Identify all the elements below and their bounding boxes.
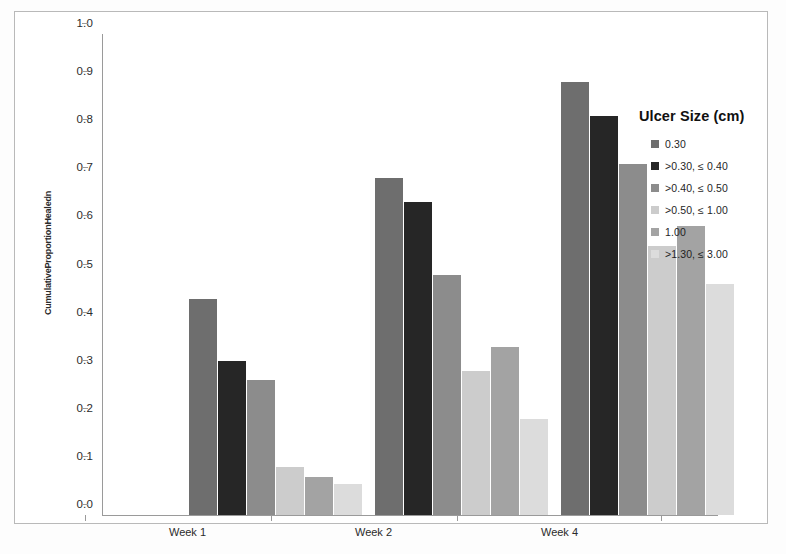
y-axis-title: CumulativeProportionHealedn xyxy=(43,168,53,338)
bar xyxy=(590,116,618,515)
legend-item: 1.00 xyxy=(651,226,777,238)
legend-item: 0.30 xyxy=(651,138,777,150)
bar xyxy=(561,82,589,515)
legend-item: >1.30, ≤ 3.00 xyxy=(651,248,777,260)
x-axis-category-label: Week 2 xyxy=(355,526,392,538)
legend-swatch-icon xyxy=(651,250,659,258)
legend-swatch-icon xyxy=(651,206,659,214)
y-axis-tick xyxy=(82,360,88,361)
plot-area xyxy=(103,34,705,515)
y-axis-tick xyxy=(82,312,88,313)
bar xyxy=(433,275,461,516)
bar xyxy=(648,246,676,515)
y-axis-tick xyxy=(82,504,88,505)
y-axis-tick xyxy=(82,215,88,216)
legend-items: 0.30>0.30, ≤ 0.40>0.40, ≤ 0.50>0.50, ≤ 1… xyxy=(627,138,777,260)
bar xyxy=(305,477,333,515)
bar xyxy=(706,284,734,515)
x-axis-tick xyxy=(271,515,272,521)
bar xyxy=(334,484,362,515)
legend-item-label: >0.40, ≤ 0.50 xyxy=(665,182,728,194)
bar xyxy=(404,202,432,515)
legend-swatch-icon xyxy=(651,184,659,192)
legend-item-label: 0.30 xyxy=(665,138,686,150)
legend-item: >0.50, ≤ 1.00 xyxy=(651,204,777,216)
y-axis-tick xyxy=(82,71,88,72)
y-axis-tick xyxy=(82,456,88,457)
bar xyxy=(520,419,548,515)
y-axis-tick xyxy=(82,23,88,24)
legend-swatch-icon xyxy=(651,140,659,148)
legend-title: Ulcer Size (cm) xyxy=(639,108,777,124)
bar xyxy=(375,178,403,515)
legend-swatch-icon xyxy=(651,162,659,170)
x-axis-tick xyxy=(457,515,458,521)
y-axis-tick xyxy=(82,167,88,168)
bar xyxy=(247,380,275,515)
x-axis-tick xyxy=(85,515,86,521)
legend-item-label: >0.30, ≤ 0.40 xyxy=(665,160,728,172)
bar xyxy=(462,371,490,515)
bar xyxy=(491,347,519,515)
bar xyxy=(189,299,217,515)
legend-item-label: >1.30, ≤ 3.00 xyxy=(665,248,728,260)
figure-canvas: 1.00.90.80.70.60.50.40.30.20.10.0 Cumula… xyxy=(0,0,786,554)
x-axis-category-label: Week 1 xyxy=(169,526,206,538)
y-axis-tick xyxy=(82,119,88,120)
y-axis-tick xyxy=(82,264,88,265)
legend-item: >0.30, ≤ 0.40 xyxy=(651,160,777,172)
bar xyxy=(276,467,304,515)
legend-item-label: 1.00 xyxy=(665,226,686,238)
bar xyxy=(218,361,246,515)
legend-swatch-icon xyxy=(651,228,659,236)
x-axis-category-label: Week 4 xyxy=(541,526,578,538)
x-axis-line xyxy=(102,515,718,516)
chart-frame: 1.00.90.80.70.60.50.40.30.20.10.0 Cumula… xyxy=(14,11,768,524)
y-axis-tick xyxy=(82,408,88,409)
chart-legend: Ulcer Size (cm) 0.30>0.30, ≤ 0.40>0.40, … xyxy=(627,108,777,270)
legend-item: >0.40, ≤ 0.50 xyxy=(651,182,777,194)
legend-item-label: >0.50, ≤ 1.00 xyxy=(665,204,728,216)
x-axis-tick xyxy=(661,515,662,521)
